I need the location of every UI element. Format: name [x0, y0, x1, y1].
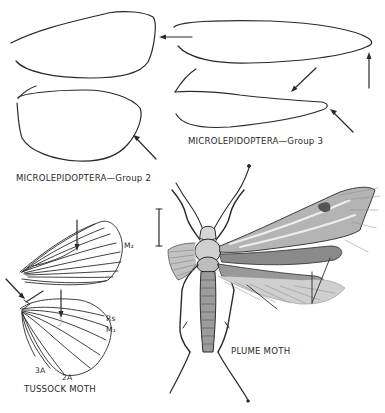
group2-arrow-apex	[159, 35, 192, 40]
group3-forewing	[174, 21, 372, 63]
group3-arrow-apex	[367, 52, 372, 88]
tussock-hindwing	[20, 299, 111, 376]
vein-label-rs: Rs	[106, 314, 116, 323]
plume-scale-bar	[156, 209, 162, 246]
group2-hindwing	[17, 86, 141, 161]
vein-label-2a: 2A	[62, 373, 72, 382]
plume-moth-right-wing	[218, 187, 380, 309]
caption-tussock-moth: TUSSOCK MOTH	[24, 384, 96, 394]
group2-arrow-margin	[133, 135, 156, 159]
vein-label-m2: M₂	[124, 241, 134, 250]
caption-plume-moth: PLUME MOTH	[231, 346, 290, 356]
vein-label-3a: 3A	[35, 366, 45, 375]
tussock-forewing	[20, 221, 122, 285]
group2-forewing	[11, 12, 155, 78]
vein-label-m1: M₁	[106, 325, 116, 334]
caption-microlepidoptera-group2: MICROLEPIDOPTERA—Group 2	[16, 173, 151, 183]
group3-arrow-notch	[291, 68, 316, 92]
figure-plate: MICROLEPIDOPTERA—Group 2 MICROLEPIDOPTER…	[0, 0, 385, 413]
group3-arrow-apex-hind	[330, 109, 353, 132]
line-art	[0, 0, 385, 413]
caption-microlepidoptera-group3: MICROLEPIDOPTERA—Group 3	[188, 136, 323, 146]
group3-hindwing	[175, 69, 327, 127]
